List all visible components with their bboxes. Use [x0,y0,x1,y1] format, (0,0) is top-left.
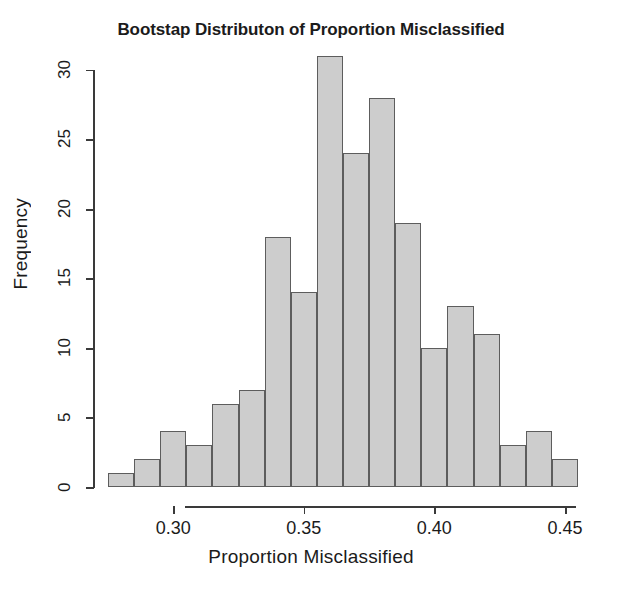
histogram-bar [212,404,238,487]
histogram-bar [500,445,526,487]
y-axis-tick-label: 10 [56,334,82,362]
histogram-bar [317,56,343,487]
x-axis-tick-label: 0.35 [269,518,339,539]
histogram-bar [186,445,212,487]
y-axis-tick-label: 25 [56,125,82,153]
histogram-bar [447,306,473,487]
histogram-bar [134,459,160,487]
y-axis-tick-label: 15 [56,264,82,292]
y-axis-tick [86,417,94,419]
histogram-bar [343,153,369,487]
y-axis-tick-label: 5 [56,403,82,431]
y-axis-tick-label: 20 [56,195,82,223]
x-axis-tick [173,506,175,514]
histogram-bar [395,223,421,487]
y-axis-tick [86,348,94,350]
histogram-bar [239,390,265,487]
histogram-bar [526,431,552,487]
x-axis-tick-label: 0.30 [138,518,208,539]
x-axis-title: Proportion Misclassified [0,546,622,568]
histogram-bar [291,292,317,487]
x-axis-tick [304,506,306,514]
histogram-bar [265,237,291,487]
histogram-bar [108,473,134,487]
y-axis-tick [86,70,94,72]
y-axis-title: Frequency [10,198,32,290]
histogram-bar [369,98,395,487]
x-axis-tick-label: 0.45 [530,518,600,539]
y-axis-tick [86,209,94,211]
plot-area [108,56,578,487]
histogram-bar [421,348,447,487]
histogram-chart: Bootstap Distributon of Proportion Miscl… [0,0,622,595]
x-axis-tick-label: 0.40 [399,518,469,539]
y-axis-tick [86,487,94,489]
x-axis-tick [565,506,567,514]
histogram-bar [552,459,578,487]
y-axis-tick-label: 0 [56,473,82,501]
x-axis-tick [434,506,436,514]
histogram-bar [160,431,186,487]
y-axis-tick-label: 30 [56,56,82,84]
bars-layer [108,56,578,487]
chart-title: Bootstap Distributon of Proportion Miscl… [0,20,622,40]
y-axis-tick [86,139,94,141]
histogram-bar [474,334,500,487]
x-axis-line [185,506,576,508]
y-axis-tick [86,278,94,280]
